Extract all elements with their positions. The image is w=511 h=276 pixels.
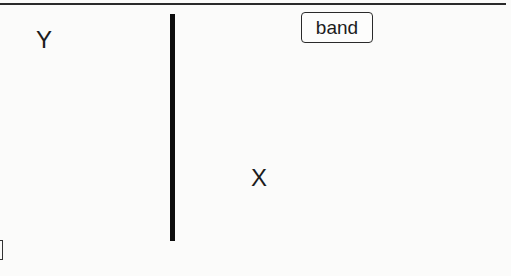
vertical-divider-bar <box>170 14 175 241</box>
x-label: X <box>251 166 267 190</box>
bracket-fragment <box>0 240 3 260</box>
band-box-label: band <box>316 18 358 37</box>
band-box: band <box>301 12 373 43</box>
top-horizontal-rule <box>0 3 506 5</box>
y-label: Y <box>36 28 52 52</box>
